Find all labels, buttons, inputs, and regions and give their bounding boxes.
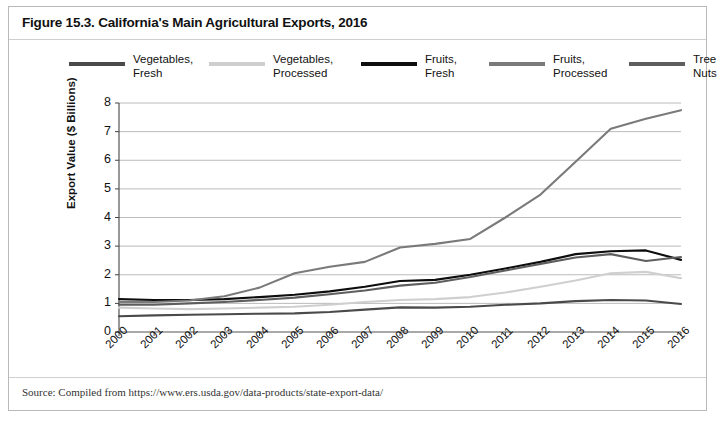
legend-label: Vegetables, Processed xyxy=(273,53,333,80)
figure-card: Figure 15.3. California's Main Agricultu… xyxy=(8,6,707,411)
legend-item: Fruits, Processed xyxy=(489,53,607,80)
legend-item: Fruits, Fresh xyxy=(361,53,457,80)
series-line xyxy=(119,254,681,305)
y-axis-title: Export Value ($ Billions) xyxy=(65,77,77,209)
gridlines xyxy=(119,103,681,332)
legend-label: Fruits, Fresh xyxy=(425,53,457,80)
figure-title: Figure 15.3. California's Main Agricultu… xyxy=(22,15,367,30)
y-tick-label: 5 xyxy=(91,181,111,195)
y-tick-label: 3 xyxy=(91,238,111,252)
legend-swatch-icon xyxy=(209,62,265,66)
legend-swatch-icon xyxy=(629,62,685,66)
y-tick-label: 4 xyxy=(91,210,111,224)
legend-item: Vegetables, Processed xyxy=(209,53,333,80)
legend-swatch-icon xyxy=(489,62,545,66)
legend-swatch-icon xyxy=(69,62,125,66)
legend-item: Vegetables, Fresh xyxy=(69,53,193,80)
legend-item: Tree Nuts xyxy=(629,53,717,80)
legend-swatch-icon xyxy=(361,62,417,66)
chart-legend: Vegetables, FreshVegetables, ProcessedFr… xyxy=(69,53,699,87)
y-tick-label: 6 xyxy=(91,152,111,166)
source-note: Source: Compiled from https://www.ers.us… xyxy=(22,386,383,398)
legend-label: Vegetables, Fresh xyxy=(133,53,193,80)
y-tick-label: 1 xyxy=(91,295,111,309)
y-tick-label: 2 xyxy=(91,267,111,281)
plot-area: Export Value ($ Billions) 012345678 2000… xyxy=(9,87,708,377)
series-line xyxy=(119,110,681,302)
y-tick-label: 7 xyxy=(91,124,111,138)
source-divider xyxy=(9,377,706,378)
legend-label: Tree Nuts xyxy=(693,53,717,80)
legend-label: Fruits, Processed xyxy=(553,53,607,80)
title-divider xyxy=(9,39,706,40)
y-tick-label: 8 xyxy=(91,95,111,109)
